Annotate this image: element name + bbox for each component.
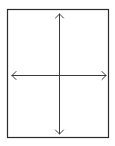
axes-diagram [0, 0, 115, 146]
diagram-canvas [0, 0, 115, 146]
frame-rectangle [8, 10, 109, 138]
